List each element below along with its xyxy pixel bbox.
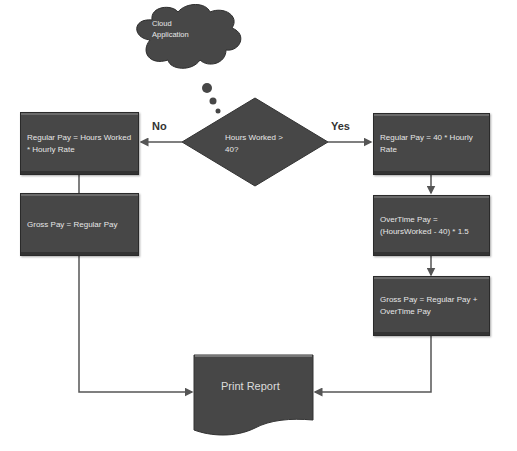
print-report-label: Print Report [221,380,280,392]
decision-label: Hours Worked > 40? [225,132,283,156]
cloud-label-line1: Cloud [152,18,189,29]
cloud-label-line2: Application [152,29,189,40]
overtime-pay-text: OverTime Pay = (HoursWorked - 40) * 1.5 [380,214,483,238]
right-gross-pay-text: Gross Pay = Regular Pay + OverTime Pay [380,294,483,318]
right-regular-pay-text: Regular Pay = 40 * Hourly Rate [380,132,483,156]
overtime-pay-box: OverTime Pay = (HoursWorked - 40) * 1.5 [373,195,490,256]
left-gross-pay-box: Gross Pay = Regular Pay [20,193,139,256]
no-branch-label: No [152,120,167,132]
yes-branch-label: Yes [331,120,350,132]
left-regular-pay-text: Regular Pay = Hours Worked * Hourly Rate [27,132,132,156]
right-gross-pay-box: Gross Pay = Regular Pay + OverTime Pay [373,276,490,336]
print-report-shape [194,355,313,435]
right-regular-pay-box: Regular Pay = 40 * Hourly Rate [373,113,490,175]
left-regular-pay-box: Regular Pay = Hours Worked * Hourly Rate [20,112,139,175]
left-gross-pay-text: Gross Pay = Regular Pay [27,219,117,231]
decision-label-line1: Hours Worked > [225,132,283,144]
cloud-label: Cloud Application [152,18,189,40]
decision-label-line2: 40? [225,144,283,156]
